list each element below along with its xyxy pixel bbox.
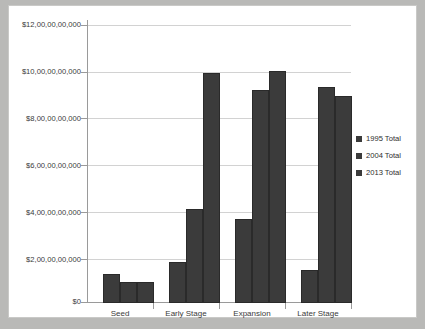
x-axis-category-label-later-stage: Later Stage: [285, 309, 351, 318]
x-axis-category-label-expansion: Expansion: [219, 309, 285, 318]
y-axis-label-column: $12,00,00,00,000 $10,00,00,00,000 $8,00,…: [9, 6, 81, 319]
y-axis-tick-label: $6,00,00,00,000: [26, 162, 81, 170]
x-axis-tick: [351, 303, 352, 309]
bar-early-stage-2004: [186, 209, 203, 303]
legend-swatch-icon: [356, 170, 362, 176]
bar-seed-2004: [120, 282, 137, 303]
legend-swatch-icon: [356, 153, 362, 159]
bar-seed-2013: [137, 282, 154, 303]
bar-expansion-2013: [269, 71, 286, 303]
bar-later-stage-2004: [318, 87, 335, 303]
y-axis-tick-label: $4,00,00,00,000: [26, 209, 81, 217]
bar-early-stage-2013: [203, 73, 220, 303]
bar-early-stage-1995: [169, 262, 186, 303]
legend-item-1995: 1995 Total: [356, 134, 418, 143]
y-axis-tick-label: $12,00,00,00,000: [22, 21, 81, 29]
bar-expansion-1995: [235, 219, 252, 303]
y-axis-tick-label: $10,00,00,00,000: [22, 68, 81, 76]
legend-swatch-icon: [356, 136, 362, 142]
bar-later-stage-2013: [335, 96, 352, 303]
bars-layer: [87, 20, 351, 303]
chart-legend: 1995 Total 2004 Total 2013 Total: [356, 134, 418, 185]
legend-item-2013: 2013 Total: [356, 168, 418, 177]
legend-label: 2013 Total: [366, 168, 401, 177]
chart-card: $12,00,00,00,000 $10,00,00,00,000 $8,00,…: [8, 5, 417, 318]
bar-later-stage-1995: [301, 270, 318, 303]
legend-label: 1995 Total: [366, 134, 401, 143]
legend-label: 2004 Total: [366, 151, 401, 160]
x-axis-category-label-early-stage: Early Stage: [153, 309, 219, 318]
y-axis-tick-label: $2,00,00,00,000: [26, 256, 81, 264]
y-axis-tick-label: $0: [73, 298, 81, 306]
y-axis-tick-label: $8,00,00,00,000: [26, 115, 81, 123]
legend-item-2004: 2004 Total: [356, 151, 418, 160]
bar-seed-1995: [103, 274, 120, 303]
x-axis-category-label-seed: Seed: [87, 309, 153, 318]
bar-expansion-2004: [252, 90, 269, 303]
